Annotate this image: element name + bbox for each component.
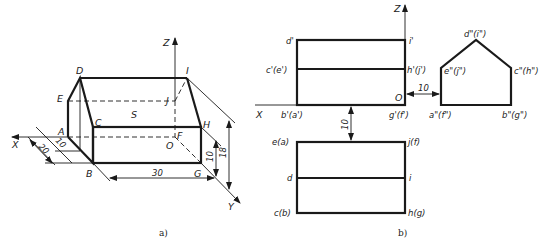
- vertex-h-label: H: [203, 119, 210, 130]
- technical-drawing: Z X Y O D I E J C H A F B G S 30 10 18 2…: [0, 0, 543, 250]
- front-top-left-label: d': [286, 36, 294, 46]
- front-mid-left-label: c'(e'): [266, 65, 287, 75]
- vertex-b-label: B: [86, 168, 93, 179]
- z-axis-b-label: Z: [393, 3, 401, 14]
- side-left-shoulder-label: e"(j"): [444, 66, 466, 76]
- vertex-e-label: E: [57, 93, 63, 104]
- x-axis-label: X: [11, 139, 19, 150]
- y-axis: [201, 163, 240, 203]
- top-bottom-right-label: h(g): [408, 208, 425, 218]
- z-axis-label: Z: [162, 37, 170, 48]
- top-mid-right-label: i: [409, 173, 412, 183]
- dim-10-offset-label: 10: [54, 135, 69, 150]
- figure-b-orthographic: Z X O d' i' c'(e') h'(j') b'(a') g'(f') …: [255, 3, 539, 238]
- top-mid-left-label: d: [287, 173, 293, 183]
- hidden-edge-ji: [175, 78, 187, 101]
- vertex-j-label: J: [164, 95, 169, 106]
- front-view-outline: [297, 40, 405, 105]
- side-right-shoulder-label: c"(h"): [514, 66, 539, 76]
- vertex-g-label: G: [194, 168, 201, 179]
- dim-10-label: 10: [205, 151, 215, 162]
- front-mid-right-label: h'(j'): [407, 65, 426, 75]
- front-bottom-left-label: b'(a'): [281, 110, 303, 120]
- side-apex-label: d"(i"): [464, 29, 486, 39]
- front-top-right-label: i': [409, 36, 414, 46]
- top-top-left-label: e(a): [272, 137, 289, 147]
- edge-ih: [187, 78, 201, 127]
- dim-18-label: 18: [218, 147, 228, 158]
- y-axis-label: Y: [228, 201, 235, 212]
- ext-line-b: [93, 163, 110, 181]
- side-bottom-right-label: b"(g"): [502, 110, 527, 120]
- dim-gap-top-label: 10: [340, 119, 350, 130]
- vertex-i-label: I: [186, 65, 189, 76]
- dim-30-label: 30: [152, 168, 163, 178]
- caption-b: b): [398, 228, 407, 238]
- vertex-f-label: F: [177, 130, 183, 141]
- side-bottom-left-label: a"(f"): [429, 110, 452, 120]
- vertex-c-label: C: [95, 117, 102, 128]
- vertex-d-label: D: [76, 65, 83, 76]
- front-face: [93, 127, 201, 163]
- top-top-right-label: j(f): [407, 137, 420, 147]
- origin-b-label: O: [395, 92, 403, 103]
- gable-end-face: [68, 78, 93, 163]
- dim-20-label: 20: [37, 141, 52, 156]
- face-s-label: S: [131, 109, 137, 120]
- front-bottom-right-label: g'(f'): [389, 110, 409, 120]
- caption-a: a): [159, 228, 168, 238]
- figure-a-isometric: Z X Y O D I E J C H A F B G S 30 10 18 2…: [11, 37, 240, 238]
- origin-label: O: [166, 140, 174, 151]
- dim-gap-side-label: 10: [418, 83, 429, 93]
- x-axis-b-label: X: [255, 109, 263, 120]
- top-bottom-left-label: c(b): [274, 208, 291, 218]
